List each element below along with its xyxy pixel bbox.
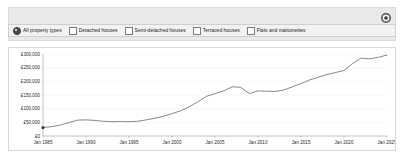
price-series-line [43, 55, 387, 127]
svg-text:Jan 2020: Jan 2020 [335, 140, 354, 145]
svg-text:£150,000: £150,000 [21, 93, 41, 98]
radio-all-property-types[interactable] [13, 27, 21, 35]
series-start-marker [41, 126, 44, 129]
svg-text:Jan 1995: Jan 1995 [120, 140, 139, 145]
x-axis-labels: Jan 1985Jan 1990Jan 1995Jan 2000Jan 2005… [34, 140, 395, 145]
svg-text:£100,000: £100,000 [21, 106, 41, 111]
svg-text:Jan 1985: Jan 1985 [34, 140, 53, 145]
checkbox-flats-and-maisonettes[interactable] [247, 27, 255, 35]
svg-text:Jan 2000: Jan 2000 [163, 140, 182, 145]
svg-text:£0: £0 [35, 134, 41, 139]
checkbox-detached-houses[interactable] [69, 27, 77, 35]
house-price-chart-widget: All property types Detached houses Semi-… [0, 0, 404, 158]
filter-option-flats-and-maisonettes[interactable]: Flats and maisonettes [247, 27, 306, 35]
chart-panel: £0£50,000£100,000£150,000£200,000£250,00… [8, 47, 396, 151]
filter-option-all-property-types[interactable]: All property types [13, 27, 62, 35]
gear-icon[interactable] [380, 10, 392, 22]
filter-label-semi-detached-houses: Semi-detached houses [135, 27, 186, 34]
filter-label-all-property-types: All property types [23, 27, 62, 34]
checkbox-semi-detached-houses[interactable] [125, 27, 133, 35]
chart-axes [43, 54, 387, 138]
svg-text:Jan 2010: Jan 2010 [249, 140, 268, 145]
filter-option-detached-houses[interactable]: Detached houses [69, 27, 118, 35]
property-type-filter-bar: All property types Detached houses Semi-… [8, 24, 396, 37]
filter-label-detached-houses: Detached houses [79, 27, 118, 34]
svg-text:£200,000: £200,000 [21, 79, 41, 84]
svg-text:£300,000: £300,000 [21, 52, 41, 57]
checkbox-terraced-houses[interactable] [193, 27, 201, 35]
filter-option-terraced-houses[interactable]: Terraced houses [193, 27, 240, 35]
svg-text:Jan 2005: Jan 2005 [206, 140, 225, 145]
filter-label-terraced-houses: Terraced houses [203, 27, 240, 34]
price-line-chart[interactable]: £0£50,000£100,000£150,000£200,000£250,00… [9, 48, 395, 150]
chart-gridlines [43, 54, 387, 122]
filter-option-semi-detached-houses[interactable]: Semi-detached houses [125, 27, 186, 35]
y-axis-labels: £0£50,000£100,000£150,000£200,000£250,00… [21, 52, 41, 139]
svg-text:£250,000: £250,000 [21, 65, 41, 70]
svg-text:Jan 2025: Jan 2025 [378, 140, 395, 145]
svg-text:Jan 1990: Jan 1990 [77, 140, 96, 145]
svg-text:£50,000: £50,000 [23, 120, 40, 125]
svg-text:Jan 2015: Jan 2015 [292, 140, 311, 145]
filter-label-flats-and-maisonettes: Flats and maisonettes [257, 27, 306, 34]
